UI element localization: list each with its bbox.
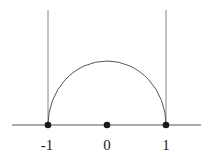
point-one — [163, 122, 170, 129]
point-zero — [104, 122, 111, 129]
label-zero: 0 — [103, 137, 111, 153]
semicircle-diagram: -1 0 1 — [0, 0, 212, 157]
semicircle-arc — [48, 61, 166, 125]
point-minus-one — [45, 122, 52, 129]
label-minus-one: -1 — [41, 137, 54, 153]
label-one: 1 — [162, 137, 170, 153]
